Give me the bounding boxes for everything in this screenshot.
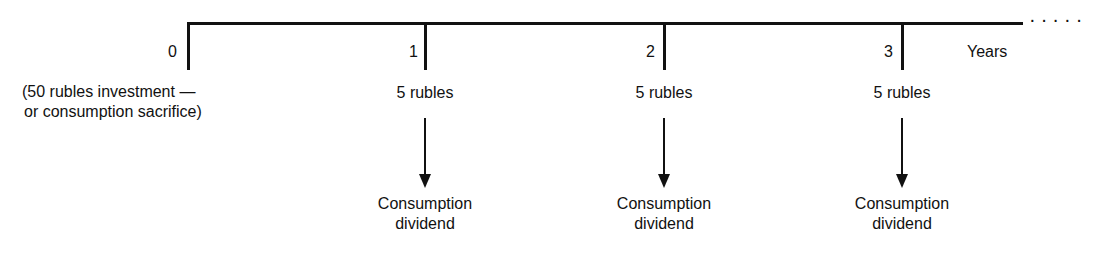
investment-label-line1: (50 rubles investment — (22, 82, 195, 102)
dividend-label-3-line1: Consumption (855, 194, 949, 214)
dividend-label-2-line2: dividend (634, 214, 694, 234)
dividend-label-3-line2: dividend (872, 214, 932, 234)
payment-label-3: 5 rubles (874, 83, 931, 103)
arrow-down-icon (901, 118, 903, 176)
dividend-label-2-line1: Consumption (617, 194, 711, 214)
axis-label-years: Years (967, 42, 1007, 62)
dividend-label-1-line1: Consumption (378, 194, 472, 214)
arrowhead-icon (658, 174, 670, 188)
tick-year-2 (663, 22, 666, 70)
continuation-dots: ····· (1029, 9, 1087, 29)
arrowhead-icon (896, 174, 908, 188)
year-label-1: 1 (409, 42, 418, 62)
arrowhead-icon (419, 174, 431, 188)
tick-year-3 (901, 22, 904, 70)
year-label-0: 0 (168, 42, 177, 62)
tick-year-1 (424, 22, 427, 70)
arrow-down-icon (663, 118, 665, 176)
payment-label-2: 5 rubles (636, 83, 693, 103)
arrow-down-icon (424, 118, 426, 176)
year-label-2: 2 (646, 42, 655, 62)
dividend-label-1-line2: dividend (395, 214, 455, 234)
payment-label-1: 5 rubles (397, 83, 454, 103)
investment-label-line2: or consumption sacrifice) (24, 102, 202, 122)
year-label-3: 3 (884, 42, 893, 62)
timeline-axis-line (188, 22, 1023, 25)
tick-year-0 (187, 22, 190, 70)
